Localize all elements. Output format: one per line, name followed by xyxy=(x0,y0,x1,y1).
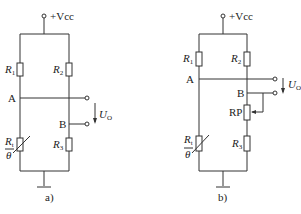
svg-text:θ: θ xyxy=(185,148,191,160)
resistor-r3-a xyxy=(66,138,72,151)
wiper-arrow-icon xyxy=(251,110,256,114)
svg-text:R2: R2 xyxy=(230,52,242,66)
output-terminal-a-a xyxy=(85,96,89,100)
resistor-r2-b xyxy=(244,52,250,66)
svg-text:R3: R3 xyxy=(52,138,64,152)
node-a-label-a: A xyxy=(8,92,16,104)
svg-text:R1: R1 xyxy=(4,63,16,77)
svg-text:R1: R1 xyxy=(182,52,194,66)
node-a-label-b: A xyxy=(186,73,194,85)
svg-text:R2: R2 xyxy=(52,63,64,77)
node-b-label-a: B xyxy=(59,118,66,130)
vcc-terminal-a xyxy=(42,14,46,18)
potentiometer-rp-b xyxy=(244,105,250,120)
svg-text:θ: θ xyxy=(6,149,12,161)
node-b-label-b: B xyxy=(237,87,244,99)
svg-text:Rt: Rt xyxy=(183,133,193,147)
resistor-r1-b xyxy=(196,52,202,66)
vcc-label-b: +Vcc xyxy=(229,10,253,22)
vcc-terminal-b xyxy=(221,14,225,18)
rp-label-b: RP xyxy=(229,106,242,118)
circuit-panel-a: +Vcc R1 R2 A B UO Rt θ xyxy=(4,10,112,204)
caption-a: a) xyxy=(45,191,54,204)
svg-text:UO: UO xyxy=(99,108,112,122)
svg-text:Rt: Rt xyxy=(4,135,14,149)
resistor-r1-a xyxy=(17,63,23,76)
bridge-circuit-figure: +Vcc R1 R2 A B UO Rt θ xyxy=(0,0,301,214)
resistor-r3-b xyxy=(244,136,250,151)
output-terminal-a-b xyxy=(273,77,277,81)
output-terminal-b-a xyxy=(85,122,89,126)
svg-text:UO: UO xyxy=(288,78,301,92)
caption-b: b) xyxy=(218,191,228,204)
svg-text:R3: R3 xyxy=(231,137,243,151)
circuit-panel-b: +Vcc R1 R2 A B xyxy=(182,10,301,204)
resistor-r2-a xyxy=(66,63,72,76)
vcc-label-a: +Vcc xyxy=(50,10,74,22)
output-terminal-b-b xyxy=(273,91,277,95)
